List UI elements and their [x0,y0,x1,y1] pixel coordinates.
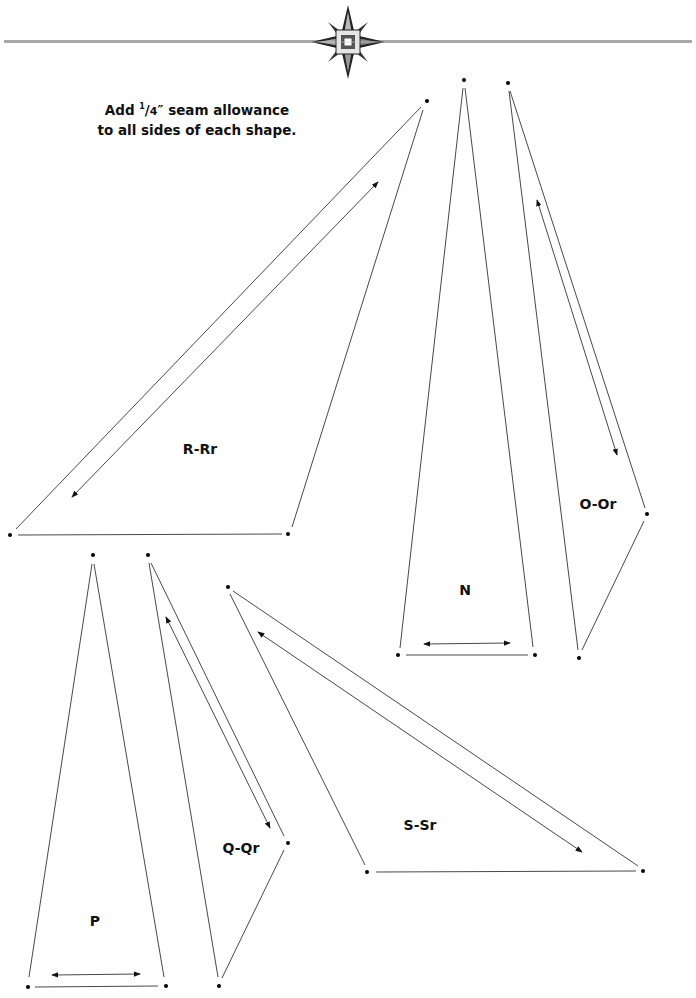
shape-label-r-rr: R-Rr [183,441,217,457]
grainline-arrow [166,617,270,828]
shape-label-n: N [459,582,471,598]
shape-label-q-qr: Q-Qr [223,840,260,856]
grainline-arrow [72,182,378,497]
shape-o-or [509,91,645,650]
shape-label-o-or: O-Or [580,496,617,512]
shape-q-qr [149,563,284,978]
shape-r-rr [16,107,423,535]
grainline-arrow [424,643,510,644]
shape-label-p: P [90,913,100,929]
grainline-arrow [52,974,140,975]
vertex-dots [8,78,649,989]
shape-n [400,88,533,655]
shape-label-s-sr: S-Sr [404,817,437,833]
